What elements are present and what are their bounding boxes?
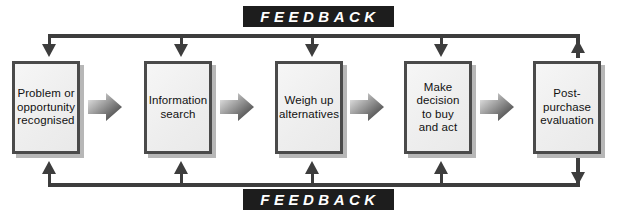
chevron-arrow-stage-3-to-4-icon bbox=[350, 92, 384, 122]
feedback-bottom-label: FEEDBACK bbox=[243, 189, 394, 210]
feedback-top-rail bbox=[48, 34, 580, 38]
chevron-arrow-stage-4-to-5-icon bbox=[480, 92, 514, 122]
stage-box-make-decision-to-buy-and-act[interactable]: Make decision to buy and act bbox=[404, 61, 472, 154]
feedback-bottom-arrow-stage-3-icon bbox=[305, 161, 319, 174]
stage-label-5: Post- purchase evaluation bbox=[537, 87, 596, 128]
feedback-bottom-arrow-stage-1-icon bbox=[42, 161, 56, 174]
stage-box-post-purchase-evaluation[interactable]: Post- purchase evaluation bbox=[533, 61, 601, 154]
consumer-decision-process-diagram: FEEDBACK Problem or opportunity recognis… bbox=[0, 0, 628, 213]
feedback-bottom-arrow-stage-2-icon bbox=[174, 161, 188, 174]
chevron-arrow-stage-2-to-3-icon bbox=[220, 92, 254, 122]
stage-label-2: Information search bbox=[146, 94, 211, 121]
feedback-top-arrow-stage-4-icon bbox=[434, 44, 448, 57]
stage-label-3: Weigh up alternatives bbox=[276, 94, 342, 121]
feedback-bottom-arrow-stage-4-icon bbox=[434, 161, 448, 174]
feedback-top-label: FEEDBACK bbox=[243, 6, 394, 27]
stage-label-4: Make decision to buy and act bbox=[414, 81, 463, 135]
feedback-top-source-arrow-icon bbox=[571, 40, 585, 53]
stage-label-1: Problem or opportunity recognised bbox=[14, 87, 78, 128]
stage-box-information-search[interactable]: Information search bbox=[144, 61, 212, 154]
feedback-bottom-rail bbox=[48, 183, 580, 187]
stage-box-weigh-up-alternatives[interactable]: Weigh up alternatives bbox=[275, 61, 343, 154]
feedback-top-arrow-stage-1-icon bbox=[42, 44, 56, 57]
stage-box-problem-or-opportunity-recognised[interactable]: Problem or opportunity recognised bbox=[12, 61, 80, 154]
feedback-top-arrow-stage-3-icon bbox=[305, 44, 319, 57]
chevron-arrow-stage-1-to-2-icon bbox=[88, 92, 122, 122]
feedback-top-arrow-stage-2-icon bbox=[174, 44, 188, 57]
feedback-bottom-source-arrow-icon bbox=[571, 172, 585, 185]
